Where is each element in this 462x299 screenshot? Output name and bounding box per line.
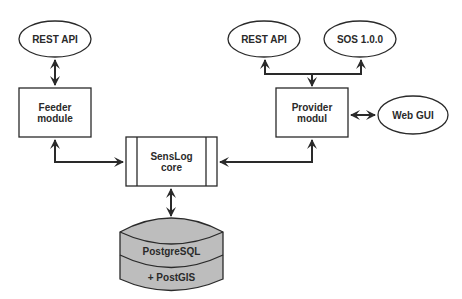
edge-feeder-to-core [55,140,123,162]
database-postgis-label: + PostGIS [120,270,223,284]
feeder-rest-api-label: REST API [19,21,91,57]
edge-bus [265,60,361,74]
web-gui-label: Web GUI [378,96,448,134]
senslog-core-label: SensLog core [137,137,206,186]
feeder-module-label: Feeder module [19,88,91,137]
sos-label: SOS 1.0.0 [324,21,396,57]
provider-modul-label: Provider modul [276,88,348,137]
database-postgresql-label: PostgreSQL [120,244,223,258]
provider-rest-api-label: REST API [228,21,300,57]
edge-provider-to-core [220,140,312,162]
